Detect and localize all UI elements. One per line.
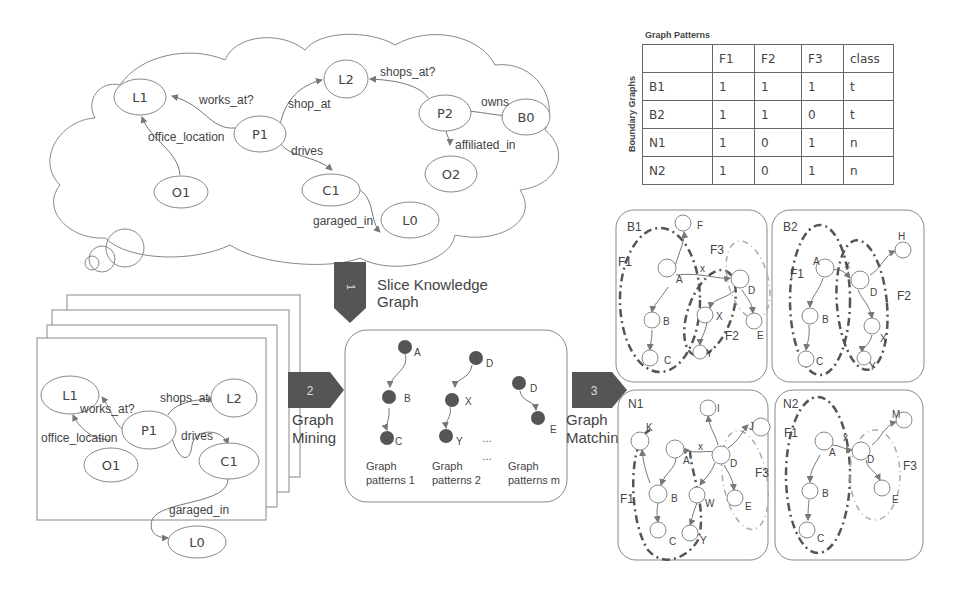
kg-edge-affiliated-in: affiliated_in: [455, 138, 516, 152]
pattern-2-caption-line2: patterns 2: [432, 474, 481, 486]
B2-node-H: H: [898, 231, 905, 242]
feature-table: F1 F2 F3 class B1 1 1 1 t B2 1 1 0 t N1 …: [642, 44, 894, 185]
pattern-ellipsis: …: [482, 433, 492, 444]
table-row: B2 1 1 0 t: [643, 101, 894, 129]
pattern-m-caption-line1: Graph: [508, 460, 539, 472]
B2-node-A: A: [813, 256, 820, 267]
N1-node-B: B: [671, 493, 678, 504]
cell: B2: [643, 101, 713, 129]
B2-node-D: D: [870, 287, 877, 298]
kg-edge-garaged-in: garaged_in: [313, 214, 373, 228]
table-title: Graph Patterns: [645, 30, 710, 40]
step-3-number: 3: [591, 384, 598, 398]
N1-node-J: J: [749, 421, 754, 432]
cell: 1: [755, 101, 802, 129]
N1-node-K: K: [646, 422, 653, 433]
slice-node-C1: C1: [220, 454, 237, 469]
kg-node-C1: C1: [322, 183, 339, 198]
kg-edge-owns: owns: [481, 95, 509, 109]
B2-edge-x: x: [845, 259, 850, 270]
kg-node-L1: L1: [132, 90, 148, 105]
pattern-1-node-B: B: [404, 393, 411, 404]
pattern-2-node-D: D: [486, 358, 493, 369]
N2-node-A: A: [829, 447, 836, 458]
N1-node-I: I: [717, 403, 720, 414]
step-1-label-line2: Graph: [377, 293, 419, 310]
kg-node-O1: O1: [172, 185, 191, 200]
B1-edge-x: x: [700, 263, 705, 274]
cell: 1: [755, 73, 802, 101]
table-row: N2 1 0 1 n: [643, 157, 894, 185]
N1-node-A: A: [683, 455, 690, 466]
N2-edge-x: x: [843, 432, 848, 443]
N2-feature-F1: F1: [784, 426, 798, 440]
knowledge-graph: L1 L2 P1 P2 B0 O1 O2 C1 L0 works_at? off…: [114, 60, 550, 238]
kg-edge-shop-at: shop_at: [288, 97, 331, 111]
N1-node-E: E: [745, 501, 752, 512]
pattern-m-node-D: D: [530, 383, 537, 394]
B1-node-D: D: [748, 285, 755, 296]
cell: t: [844, 101, 894, 129]
panel-N2-title: N2: [783, 397, 799, 411]
N1-feature-F1: F1: [620, 492, 634, 506]
cell: n: [844, 129, 894, 157]
slice-edge-office-location: office_location: [41, 431, 118, 445]
pattern-m-node-E: E: [550, 424, 557, 435]
N2-node-C: C: [817, 533, 824, 544]
cell: n: [844, 157, 894, 185]
pattern-1-caption-line1: Graph: [366, 460, 397, 472]
header-class: class: [844, 45, 894, 73]
slice-node-P1: P1: [141, 423, 157, 438]
B2-feature-F2: F2: [897, 289, 911, 303]
B1-node-E: E: [757, 330, 764, 341]
pattern-2-caption-line1: Graph: [432, 460, 463, 472]
B1-feature-F1: F1: [618, 255, 632, 269]
step-1-number: 1: [345, 284, 356, 290]
N1-node-W: W: [705, 498, 715, 509]
cell: N1: [643, 129, 713, 157]
panel-N1-title: N1: [628, 397, 644, 411]
step-3-label-line1: Graph: [566, 411, 608, 428]
graph-patterns-box: A B C D X Y D E … … Graph patterns 1 Gra…: [345, 330, 567, 502]
step-2-number: 2: [307, 384, 314, 398]
pattern-1-node-A: A: [414, 347, 421, 358]
slice-node-O1: O1: [102, 458, 121, 473]
kg-node-L0: L0: [402, 213, 418, 228]
slice-node-L2: L2: [226, 391, 242, 406]
B2-node-Y: Y: [869, 361, 876, 372]
panel-B2-title: B2: [783, 220, 798, 234]
kg-edge-works-at: works_at?: [198, 93, 254, 107]
cell: 1: [802, 157, 844, 185]
B1-node-X: X: [716, 311, 723, 322]
N2-node-M: M: [892, 409, 900, 420]
slice-node-L0: L0: [189, 535, 205, 550]
cell: B1: [643, 73, 713, 101]
slice-edge-shops-at: shops_at: [160, 391, 209, 405]
cell: t: [844, 73, 894, 101]
cell: 1: [802, 73, 844, 101]
header-F2: F2: [755, 45, 802, 73]
kg-edge-office-location: office_location: [148, 130, 225, 144]
N2-node-E: E: [892, 494, 899, 505]
step-2-label-line1: Graph: [292, 411, 334, 428]
kg-edge-shops-at: shops_at?: [380, 65, 436, 79]
cell: 0: [802, 101, 844, 129]
step-1-arrow: 1 Slice Knowledge Graph: [334, 262, 488, 323]
cell: 1: [713, 157, 755, 185]
table-row: N1 1 0 1 n: [643, 129, 894, 157]
kg-node-L2: L2: [338, 72, 354, 87]
step-2-label-line2: Mining: [292, 429, 336, 446]
B1-node-Y: Y: [706, 348, 713, 359]
cell: 0: [755, 157, 802, 185]
cell: N2: [643, 157, 713, 185]
B1-node-B: B: [663, 316, 670, 327]
slice-edge-works-at: works_at?: [79, 402, 135, 416]
header-F1: F1: [713, 45, 755, 73]
table-header-row: F1 F2 F3 class: [643, 45, 894, 73]
B1-feature-F2: F2: [725, 329, 739, 343]
pattern-1-node-C: C: [395, 436, 402, 447]
N1-edge-x: x: [698, 441, 703, 452]
kg-node-P2: P2: [437, 106, 453, 121]
B1-node-F: F: [697, 220, 703, 231]
B2-node-X: X: [880, 333, 887, 344]
